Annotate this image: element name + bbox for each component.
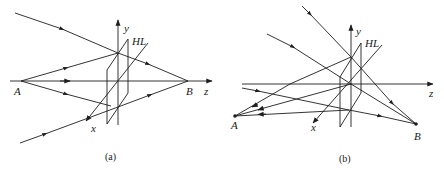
label-lens-b: HL — [364, 37, 379, 49]
label-point-a-b: A — [230, 119, 238, 131]
hologram-lens-b — [340, 43, 361, 127]
ray-steep-incoming-b — [302, 6, 351, 57]
ray-center-to-b — [351, 84, 416, 124]
label-point-b-a: B — [186, 85, 193, 97]
caption-a: (a) — [105, 151, 116, 163]
ray-a-upper — [21, 53, 118, 81]
rays-a — [15, 13, 188, 143]
ray-bottom-incoming-a — [20, 107, 118, 143]
panel-b: A B z y HL x (b) — [230, 6, 434, 165]
ray-shallow-incoming-b — [242, 88, 349, 110]
panel-a: A B z y HL x (a) — [10, 13, 212, 163]
label-axis-y-a: y — [123, 22, 129, 34]
arrow-lower-to-a — [258, 114, 266, 115]
ray-a-lower — [21, 81, 111, 106]
label-point-b-b: B — [414, 130, 421, 142]
caption-b: (b) — [339, 153, 351, 165]
label-point-a-a: A — [13, 85, 21, 97]
label-lens-a: HL — [131, 35, 146, 47]
label-axis-x-b: x — [310, 121, 316, 133]
label-axis-z-b: z — [428, 87, 434, 99]
ray-top-incoming-a — [15, 13, 118, 53]
label-axis-z-a: z — [203, 85, 209, 97]
diagram-canvas: A B z y HL x (a) — [0, 0, 444, 174]
ray-lower-to-b — [349, 110, 416, 124]
ray-mid-incoming-b — [267, 34, 351, 84]
label-axis-x-a: x — [90, 122, 96, 134]
rays-b — [235, 6, 416, 124]
label-axis-y-b: y — [355, 25, 361, 37]
ray-bottom-to-b-a — [118, 81, 188, 107]
